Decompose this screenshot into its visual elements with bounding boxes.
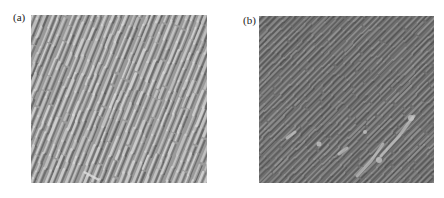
panel-a-light-stripe [86,78,89,85]
panel-b-dark-stripe [259,90,260,95]
panel-a-dark-stripe [48,93,50,99]
panel-a-dark-stripe [151,120,153,126]
panel-a-light-stripe [33,37,35,43]
panel-a-light-stripe [161,155,163,161]
panel-b-light-stripe [415,65,426,76]
panel-a-light-stripe [159,161,161,167]
panel-a-dark-stripe [201,47,203,53]
panel-a-light-stripe [95,103,98,110]
panel-b-texture [259,16,434,183]
panel-a-light-stripe [155,91,157,97]
panel-a-dark-stripe [76,74,78,80]
panel-a-light-stripe [153,101,159,116]
panel-a-dark-stripe [190,54,192,60]
panel-a-dark-stripe [40,48,43,54]
panel-a-light-stripe [38,47,41,53]
panel-a-light-stripe [100,108,103,115]
panel-b-bright-spot [376,157,382,163]
panel-a-light-stripe [48,119,51,126]
panel-a-dark-stripe [88,79,91,86]
panel-a-dark-stripe [36,38,38,44]
panel-a-dark-stripe [43,124,45,130]
panel-a-light-stripe [84,140,89,153]
panel-b-bright-spot [363,130,367,134]
panel-a-light-stripe [64,114,66,120]
panel-a-dark-stripe [163,156,165,162]
panel-a-light-stripe [84,84,86,90]
panel-a-light-stripe [85,165,88,172]
panel-a-dark-stripe [172,135,174,141]
panel-b-dark-stripe [272,125,285,138]
panel-a-light-stripe [190,146,193,153]
panel-a-dark-stripe [144,137,147,143]
panel-a-light-stripe [198,46,200,52]
panel-a-dark-stripe [76,158,79,164]
panel-a-light-stripe [149,119,151,125]
panel-a-light-stripe [57,62,60,69]
panel-b-light-stripe [372,168,378,174]
panel-a-dark-stripe [129,90,132,97]
panel-a-dark-stripe [154,15,157,16]
panel-a-texture [31,15,207,183]
panel-b-image [259,16,434,183]
panel-b-label: (b) [243,15,256,26]
panel-b-light-stripe [430,181,434,183]
panel-a-light-stripe [129,53,131,59]
panel-b-light-stripe [404,107,410,113]
panel-b-bright-spot [317,142,322,147]
panel-a-light-stripe [120,95,126,109]
panel-a-light-stripe [33,172,36,179]
panel-b-bright-spot [408,115,414,121]
panel-a-light-stripe [170,134,172,140]
panel-a-light-stripe [126,175,129,182]
panel-a-dark-stripe [36,173,39,180]
panel-a-light-stripe [205,76,207,89]
panel-a-light-stripe [46,92,48,98]
panel-a-light-stripe [193,108,196,116]
panel-b-light-stripe [378,59,392,73]
panel-a-light-stripe [167,167,172,180]
panel-a-dark-stripe [203,41,205,47]
panel-a-light-stripe [156,33,159,41]
panel-a-light-stripe [183,81,186,89]
panel-a-label: (a) [13,12,25,23]
panel-a-dark-stripe [67,115,69,121]
panel-a-image [31,15,207,183]
panel-a-light-stripe [144,18,147,24]
panel-b-light-stripe [337,155,342,161]
panel-a-dark-stripe [187,111,190,118]
